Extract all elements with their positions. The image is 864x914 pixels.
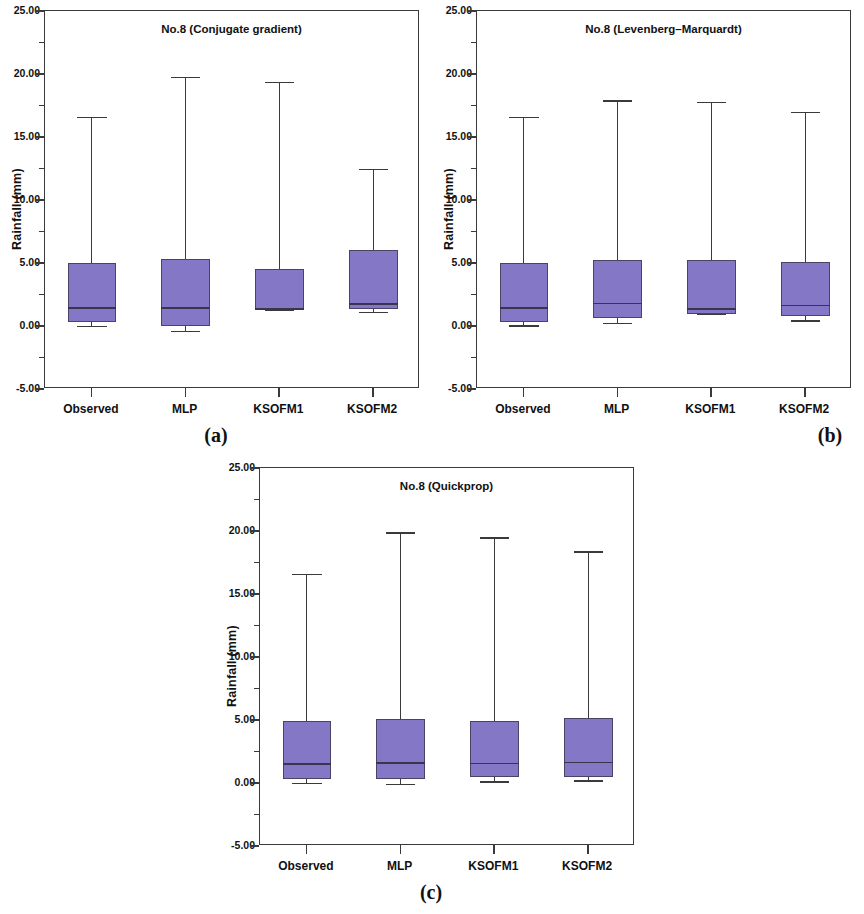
y-tick-major [35, 136, 44, 138]
whisker-upper [523, 117, 524, 263]
y-tick-major [467, 325, 476, 327]
panel-letter-a: (a) [204, 424, 227, 447]
y-tick-minor [471, 105, 476, 107]
plot-area-b: No.8 (Levenberg–Marquardt) [476, 10, 851, 388]
whisker-upper [805, 112, 806, 263]
median-line [687, 308, 736, 310]
y-axis-label-c: Rainfall (mm) [225, 625, 239, 707]
whisker-cap-upper [359, 169, 388, 170]
whisker-cap-upper [386, 532, 415, 533]
boxes-c [260, 468, 633, 844]
y-tick-major [35, 325, 44, 327]
x-tick [185, 388, 187, 397]
y-tick-minor [254, 625, 259, 627]
whisker-upper [91, 117, 92, 263]
y-tick-minor [254, 499, 259, 501]
box-ksofm1 [687, 260, 736, 314]
box-ksofm2 [564, 718, 613, 777]
whisker-cap-lower [386, 784, 415, 785]
whisker-upper [279, 82, 280, 270]
x-tick [587, 845, 589, 854]
y-tick-minor [39, 42, 44, 44]
y-tick-major [35, 262, 44, 264]
y-tick-minor [254, 688, 259, 690]
y-axis-label-a: Rainfall (mm) [10, 168, 24, 250]
whisker-cap-lower [171, 331, 200, 332]
box-observed [500, 263, 549, 322]
y-tick-major [35, 73, 44, 75]
box-ksofm1 [470, 721, 519, 777]
y-tick-major [467, 388, 476, 390]
box-mlp [593, 260, 642, 318]
whisker-cap-upper [509, 117, 538, 118]
y-tick-minor [471, 231, 476, 233]
y-tick-major [250, 530, 259, 532]
box-ksofm2 [349, 250, 398, 309]
y-tick-minor [471, 294, 476, 296]
whisker-upper [588, 551, 589, 718]
panel-b: Rainfall (mm) No.8 (Levenberg–Marquardt)… [432, 0, 864, 457]
whisker-cap-lower [292, 783, 321, 784]
panel-letter-c: (c) [420, 881, 442, 904]
median-line [376, 762, 425, 764]
median-line [781, 305, 830, 307]
plot-area-a: No.8 (Conjugate gradient) [44, 10, 419, 388]
y-tick-minor [39, 294, 44, 296]
whisker-cap-upper [265, 82, 294, 83]
x-tick-label-ksofm2: KSOFM2 [779, 402, 829, 416]
x-tick [804, 388, 806, 397]
x-tick-label-observed: Observed [278, 859, 333, 873]
whisker-upper [400, 532, 401, 718]
whisker-cap-lower [509, 325, 538, 326]
y-tick-minor [39, 168, 44, 170]
x-tick-label-ksofm1: KSOFM1 [253, 402, 303, 416]
whisker-cap-upper [791, 112, 820, 113]
y-axis-label-b: Rainfall (mm) [442, 168, 456, 250]
median-line [470, 763, 519, 765]
y-tick-major [467, 136, 476, 138]
whisker-cap-upper [697, 102, 726, 103]
box-observed [283, 721, 332, 780]
y-tick-major [250, 782, 259, 784]
whisker-cap-upper [171, 77, 200, 78]
whisker-upper [494, 537, 495, 720]
median-line [500, 307, 549, 309]
y-tick-major [35, 199, 44, 201]
whisker-cap-lower [791, 320, 820, 321]
whisker-cap-lower [480, 781, 509, 782]
median-line [283, 763, 332, 765]
y-tick-major [250, 467, 259, 469]
x-tick [278, 388, 280, 397]
boxplot-figure: Rainfall (mm) No.8 (Conjugate gradient) … [0, 0, 864, 914]
x-tick-label-mlp: MLP [172, 402, 197, 416]
x-tick [306, 845, 308, 854]
y-tick-minor [471, 357, 476, 359]
y-tick-major [250, 845, 259, 847]
x-tick [372, 388, 374, 397]
y-tick-minor [471, 42, 476, 44]
panel-a: Rainfall (mm) No.8 (Conjugate gradient) … [0, 0, 432, 457]
box-mlp [161, 259, 210, 326]
x-tick-label-mlp: MLP [387, 859, 412, 873]
box-ksofm2 [781, 262, 830, 316]
whisker-cap-lower [265, 310, 294, 311]
boxes-a [45, 11, 418, 387]
y-tick-minor [254, 562, 259, 564]
whisker-upper [185, 77, 186, 260]
y-tick-minor [39, 231, 44, 233]
x-tick-label-observed: Observed [495, 402, 550, 416]
whisker-upper [306, 574, 307, 721]
whisker-cap-upper [574, 551, 603, 552]
median-line [564, 762, 613, 764]
whisker-cap-lower [603, 323, 632, 324]
y-tick-major [467, 73, 476, 75]
y-tick-minor [39, 357, 44, 359]
whisker-cap-lower [359, 312, 388, 313]
y-tick-minor [39, 105, 44, 107]
plot-area-c: No.8 (Quickprop) [259, 467, 634, 845]
x-tick-label-ksofm2: KSOFM2 [347, 402, 397, 416]
whisker-cap-lower [574, 780, 603, 781]
whisker-upper [617, 100, 618, 260]
x-tick-label-ksofm1: KSOFM1 [468, 859, 518, 873]
y-tick-major [35, 388, 44, 390]
